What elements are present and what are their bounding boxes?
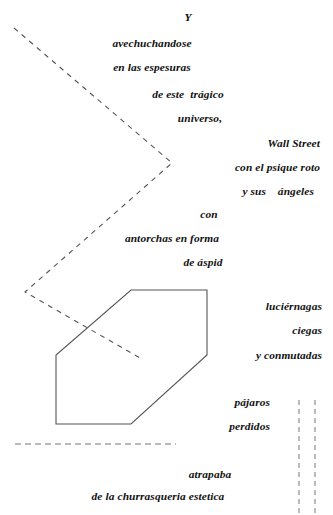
poem-line: ciegas <box>212 324 322 337</box>
poem-line: antorchas en forma <box>110 232 234 245</box>
poem-line: Wall Street <box>212 137 320 150</box>
poem-line: con <box>188 208 230 221</box>
poem-line: pájaros <box>180 396 270 409</box>
poem-line: Y <box>160 11 216 24</box>
poem-text-layer: Yavechuchandoseen las espesurasde este t… <box>0 0 333 515</box>
poem-line: perdidos <box>180 420 270 433</box>
poem-line: luciérnagas <box>212 300 322 313</box>
poem-page: Yavechuchandoseen las espesurasde este t… <box>0 0 333 515</box>
poem-line: avechuchandose <box>96 37 208 50</box>
poem-line: atrapaba <box>178 468 242 481</box>
poem-line: de la churrasqueria estetica <box>76 490 240 503</box>
poem-line: universo, <box>168 112 232 125</box>
poem-line: y sus ángeles <box>196 185 314 198</box>
poem-line: y conmutadas <box>200 349 322 362</box>
poem-line: de este trágico <box>140 88 236 101</box>
poem-line: en las espesuras <box>96 61 208 74</box>
poem-line: con el psique roto <box>196 161 320 174</box>
poem-line: de áspid <box>174 256 232 269</box>
